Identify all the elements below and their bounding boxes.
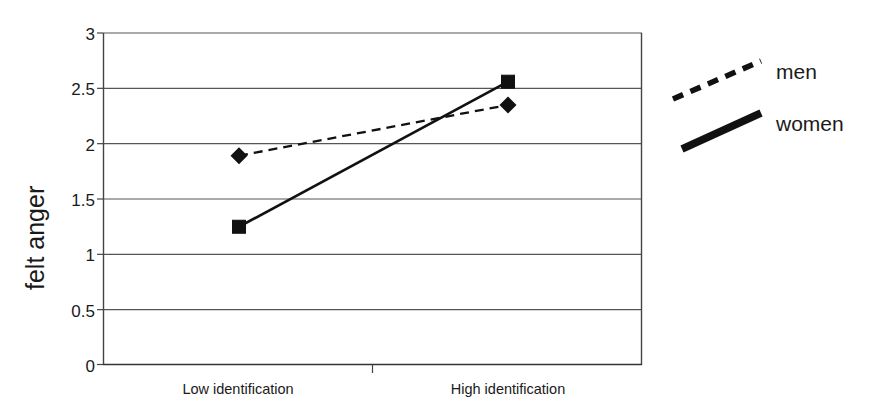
chart-figure: 3 2.5 2 1.5 1 0.5 0 felt anger Low ident… [0, 0, 878, 420]
y-tick-label-0.5: 0.5 [71, 302, 95, 321]
legend: men women [673, 60, 844, 149]
legend-label-men: men [776, 60, 817, 83]
y-tick-label-3: 3 [86, 25, 95, 44]
legend-label-women: women [775, 112, 844, 135]
y-tick-label-0: 0 [86, 357, 95, 376]
legend-swatch-men-dashed-line [673, 61, 761, 99]
x-category-label-low: Low identification [182, 381, 293, 397]
series-women-marker-high [502, 75, 515, 88]
series-women-marker-low [233, 220, 246, 233]
y-axis-title: felt anger [21, 186, 49, 290]
legend-entry-women[interactable]: women [682, 112, 844, 149]
y-tick-label-2.5: 2.5 [71, 80, 95, 99]
line-chart: 3 2.5 2 1.5 1 0.5 0 felt anger Low ident… [0, 0, 878, 420]
y-tick-label-1: 1 [86, 246, 95, 265]
y-tick-label-1.5: 1.5 [71, 191, 95, 210]
y-axis-tick-labels: 3 2.5 2 1.5 1 0.5 0 [71, 25, 95, 376]
legend-swatch-women-solid-line [682, 113, 761, 149]
legend-entry-men[interactable]: men [673, 60, 817, 99]
x-category-label-high: High identification [451, 381, 565, 397]
y-tick-label-2: 2 [86, 136, 95, 155]
y-axis-ticks [97, 33, 103, 365]
